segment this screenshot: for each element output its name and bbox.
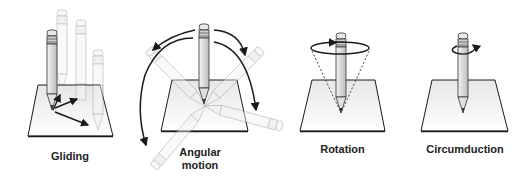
label-angular-line1: Angular [170,146,230,159]
label-angular-motion: Angular motion [170,146,230,172]
label-gliding: Gliding [30,150,110,163]
pencil [336,33,346,113]
pencil [458,33,468,113]
rotation-panel [300,33,385,132]
pencil [47,30,57,110]
circumduction-panel [421,33,508,132]
gliding-panel [28,10,113,137]
label-rotation: Rotation [300,143,385,156]
label-circumduction: Circumduction [420,143,510,156]
label-angular-line2: motion [170,159,230,172]
pencil [199,24,209,104]
